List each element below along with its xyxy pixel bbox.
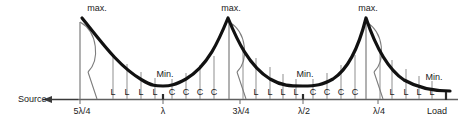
marker-label-c: C (338, 88, 345, 97)
source-arrow-icon (43, 96, 78, 103)
marker-label-c: C (183, 88, 190, 97)
peak-label: max. (87, 4, 107, 13)
axis-tick-label: λ/4 (373, 107, 385, 116)
marker-label-l: L (389, 88, 394, 97)
marker-label-l: L (280, 88, 285, 97)
marker-label-l: L (124, 88, 129, 97)
marker-label-c: C (310, 88, 317, 97)
standing-wave-diagram (0, 0, 460, 135)
marker-label-l: L (267, 88, 272, 97)
marker-label-c: C (324, 88, 331, 97)
standing-wave-curve (82, 18, 450, 91)
marker-label-l: L (429, 88, 434, 97)
marker-label-l: L (138, 88, 143, 97)
minimum-label: Min. (156, 70, 173, 79)
marker-label-l: L (253, 88, 258, 97)
peak-label: max. (221, 4, 241, 13)
marker-label-c: C (169, 88, 176, 97)
antinode-loop-group (80, 22, 382, 72)
minimum-label: Min. (296, 70, 313, 79)
axis-tick-label: 5λ/4 (73, 107, 90, 116)
marker-label-c: C (197, 88, 204, 97)
axis-tick-label: 3λ/4 (232, 107, 249, 116)
minimum-label: Min. (425, 73, 442, 82)
axis-tick-label: λ/2 (298, 107, 310, 116)
load-label: Load (427, 107, 447, 116)
source-label: Source (18, 95, 47, 104)
marker-label-l: L (293, 88, 298, 97)
marker-label-l: L (416, 88, 421, 97)
peak-label: max. (358, 4, 378, 13)
marker-label-c: C (211, 88, 218, 97)
marker-label-l: L (110, 88, 115, 97)
axis-tick-label: λ (161, 107, 166, 116)
marker-label-l: L (403, 88, 408, 97)
marker-label-c: C (352, 88, 359, 97)
marker-label-l: L (152, 88, 157, 97)
